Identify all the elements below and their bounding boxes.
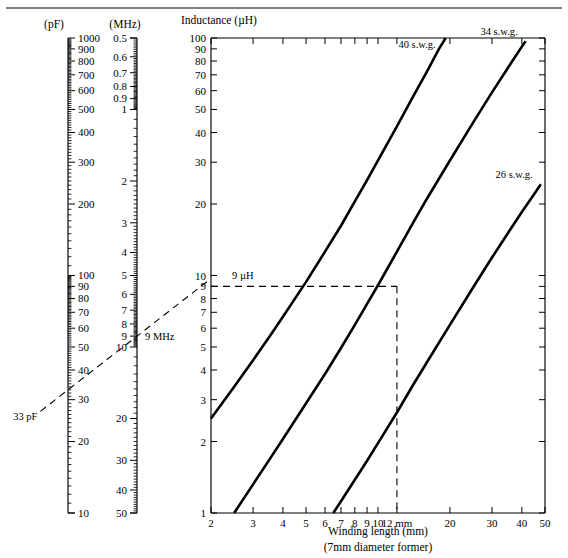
y-axis-tick-label: 5 [201, 341, 207, 353]
frequency-tick-label: 3 [122, 217, 128, 229]
frequency-tick-label: 0.5 [113, 32, 127, 44]
capacitance-tick-label: 800 [78, 55, 95, 67]
y-axis-tick-label: 4 [201, 364, 207, 376]
y-axis-tick-label: 6 [201, 322, 207, 334]
y-axis-tick-label: 70 [195, 69, 207, 81]
frequency-tick-label: 8 [122, 318, 128, 330]
capacitance-tick-label: 20 [78, 435, 90, 447]
capacitance-scale-header: (pF) [44, 18, 64, 31]
figure-canvas: (pF) 10009008007006005004003002001009080… [0, 0, 568, 558]
y-axis-tick-label: 10 [195, 270, 207, 282]
series-curve [333, 184, 540, 513]
frequency-scale-header: (MHz) [109, 18, 140, 31]
series-labels: 40 s.w.g.34 s.w.g.26 s.w.g. [398, 26, 532, 180]
capacitance-tick-label: 70 [78, 306, 90, 318]
capacitance-scale: (pF) 10009008007006005004003002001009080… [44, 18, 100, 519]
x-axis-tick-label: 5 [303, 517, 309, 529]
frequency-tick-label: 30 [116, 454, 128, 466]
frequency-tick-label: 0.6 [113, 51, 127, 63]
series-label: 26 s.w.g. [496, 169, 533, 180]
construction-lines [211, 286, 397, 513]
series-label: 34 s.w.g. [480, 26, 517, 37]
frequency-tick-label: 5 [122, 269, 128, 281]
x-axis-tick-label: 50 [540, 517, 552, 529]
capacitance-tick-label: 300 [78, 156, 95, 168]
y-axis-tick-label: 20 [195, 198, 207, 210]
frequency-marker-label: 9 MHz [145, 331, 175, 342]
y-axis-title: Inductance (µH) [181, 14, 257, 27]
y-axis-tick-label: 60 [195, 85, 207, 97]
capacitance-tick-label: 10 [78, 507, 90, 519]
inductance-marker-label: 9 µH [232, 270, 254, 281]
x-axis-title: Winding length (mm) [328, 525, 428, 538]
y-axis-tick-label: 90 [195, 43, 207, 55]
capacitance-scale-labels: 1000900800700600500400300200100908070605… [78, 32, 101, 519]
capacitance-frequency-tie-line: 33 pF 9 MHz [13, 280, 209, 423]
frequency-tick-label: 2 [122, 175, 128, 187]
nomogram-figure: (pF) 10009008007006005004003002001009080… [0, 0, 568, 558]
capacitance-tick-label: 30 [78, 393, 90, 405]
x-axis-subtitle: (7mm diameter former) [324, 541, 433, 554]
y-axis-tick-label: 2 [201, 436, 207, 448]
x-axis-tick-label: 20 [444, 517, 456, 529]
y-axis-tick-label: 40 [195, 127, 207, 139]
inductance-chart: Inductance (µH) 123456789102030405060708… [181, 14, 551, 554]
frequency-tick-label: 50 [116, 507, 128, 519]
frequency-tick-label: 6 [122, 288, 128, 300]
frequency-tick-label: 7 [122, 304, 128, 316]
y-axis-tick-label: 3 [201, 394, 207, 406]
frequency-scale-ticks [130, 38, 137, 513]
capacitance-tick-label: 80 [78, 292, 90, 304]
y-axis-tick-label: 100 [190, 32, 207, 44]
x-axis-tick-label: 4 [280, 517, 286, 529]
y-axis-tick-label: 50 [195, 103, 207, 115]
y-axis-tick-label: 9 [201, 280, 207, 292]
capacitance-scale-ticks [68, 38, 75, 513]
frequency-tick-label: 1 [122, 103, 128, 115]
x-axis-tick-label: 3 [250, 517, 256, 529]
capacitance-tick-label: 700 [78, 69, 95, 81]
y-axis-tick-label: 80 [195, 55, 207, 67]
frequency-scale-labels: 0.50.60.70.80.91234567891020304050 [113, 32, 127, 519]
frequency-tick-label: 20 [116, 412, 128, 424]
series-label: 40 s.w.g. [398, 39, 435, 50]
x-axis-tick-label: 2 [208, 517, 214, 529]
frequency-scale: (MHz) 0.50.60.70.80.91234567891020304050 [109, 18, 140, 519]
y-axis-tick-labels: 123456789102030405060708090100 [190, 32, 207, 519]
y-axis-tick-label: 30 [195, 156, 207, 168]
series-curves [211, 38, 541, 513]
capacitance-tick-label: 200 [78, 198, 95, 210]
y-axis-tick-label: 7 [201, 306, 207, 318]
capacitance-tick-label: 50 [78, 341, 90, 353]
frequency-tick-label: 40 [116, 484, 128, 496]
capacitance-tick-label: 90 [78, 280, 90, 292]
capacitance-tick-label: 400 [78, 126, 95, 138]
capacitance-tick-label: 500 [78, 103, 95, 115]
capacitance-marker-label: 33 pF [13, 411, 37, 422]
capacitance-tick-label: 60 [78, 322, 90, 334]
capacitance-tick-label: 900 [78, 43, 95, 55]
capacitance-tick-label: 600 [78, 84, 95, 96]
frequency-tick-label: 0.8 [113, 80, 127, 92]
x-axis-tick-label: 30 [486, 517, 498, 529]
y-axis-tick-label: 8 [201, 293, 207, 305]
frequency-tick-label: 4 [122, 246, 128, 258]
y-axis-tick-label: 1 [201, 507, 207, 519]
x-axis-tick-label: 40 [516, 517, 528, 529]
frequency-tick-label: 0.7 [113, 67, 127, 79]
